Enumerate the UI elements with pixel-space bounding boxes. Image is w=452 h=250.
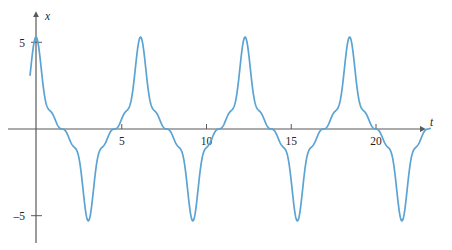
x-tick-label-20: 20 <box>370 135 382 147</box>
x-axis-ticks <box>122 124 376 129</box>
x-axis-label: t <box>430 116 434 128</box>
y-tick-label-5: 5 <box>19 37 25 49</box>
x-tick-label-5: 5 <box>119 135 125 147</box>
chart-figure: 5 10 15 20 5 –5 x t <box>0 0 452 250</box>
waveform-plot: 5 10 15 20 5 –5 x t <box>0 0 452 250</box>
y-tick-label-minus5: –5 <box>13 210 26 222</box>
x-tick-label-15: 15 <box>286 135 298 147</box>
x-axis-tick-labels: 5 10 15 20 <box>119 135 382 147</box>
axes-group <box>8 16 421 243</box>
y-axis-label: x <box>44 10 51 22</box>
